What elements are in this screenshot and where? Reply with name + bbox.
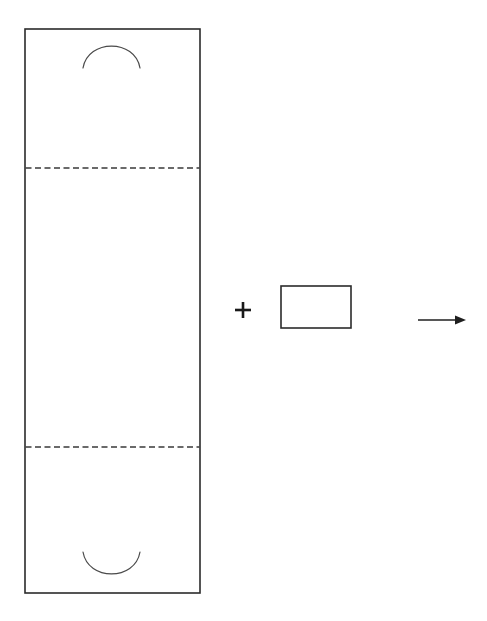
plus-vertical-bar (242, 302, 245, 318)
insert-panel-group (281, 286, 351, 328)
blank-panel-outline (25, 29, 200, 593)
diagram-canvas: + → Carton blank and insert assembly dia… (0, 0, 487, 621)
diagram-svg (0, 0, 487, 621)
blank-panel-group (25, 29, 200, 593)
insert-panel-outline (281, 286, 351, 328)
